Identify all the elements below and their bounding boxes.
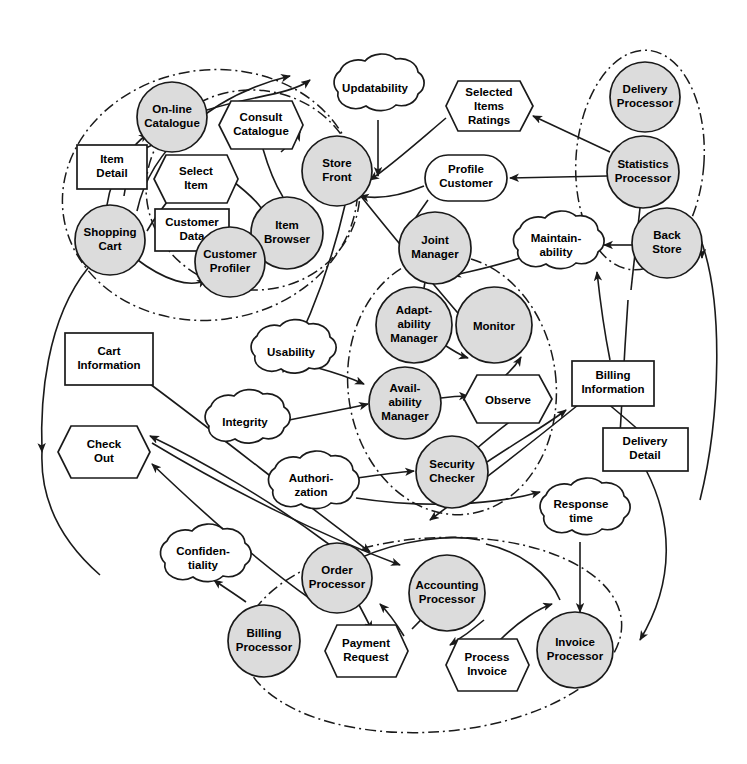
task-observe[interactable]: Observe: [464, 375, 552, 423]
softgoal-usability[interactable]: Usability: [251, 320, 336, 373]
task-check-out[interactable]: Check Out: [58, 426, 150, 478]
softgoal-updatability[interactable]: Updatability: [334, 54, 424, 111]
softgoal-maintainability[interactable]: Maintain- ability: [513, 211, 604, 269]
actor-invoice-processor[interactable]: Invoice Processor: [537, 612, 613, 688]
task-selected-items-ratings[interactable]: Selected Items Ratings: [446, 81, 533, 131]
actor-customer-profiler[interactable]: Customer Profiler: [195, 227, 265, 297]
task-process-invoice[interactable]: Process Invoice: [446, 639, 529, 691]
task-consult-catalogue[interactable]: Consult Catalogue: [219, 101, 303, 149]
goal-profile-customer[interactable]: Profile Customer: [425, 155, 507, 201]
softgoal-confidentiality[interactable]: Confiden- tiality: [160, 524, 251, 582]
resource-cart-information[interactable]: Cart Information: [65, 333, 153, 385]
softgoal-authorization[interactable]: Authori- zation: [268, 451, 359, 509]
softgoal-response-time[interactable]: Response time: [540, 478, 630, 535]
resource-item-detail[interactable]: Item Detail: [77, 145, 147, 189]
actor-availability-manager[interactable]: Avail- ability Manager: [369, 367, 441, 439]
actor-statistics-processor[interactable]: Statistics Processor: [607, 136, 679, 208]
actor-back-store[interactable]: Back Store: [632, 208, 702, 278]
actor-security-checker[interactable]: Security Checker: [416, 436, 488, 508]
actor-monitor[interactable]: Monitor: [456, 287, 532, 363]
actor-order-processor[interactable]: Order Processor: [302, 543, 372, 613]
task-select-item[interactable]: Select Item: [154, 155, 238, 203]
softgoal-integrity[interactable]: Integrity: [205, 390, 290, 443]
goal-group: Profile Customer: [425, 155, 507, 201]
agent-goal-dependency-diagram: Updatability Maintain- ability Usability…: [0, 0, 747, 764]
diagram-canvas: Updatability Maintain- ability Usability…: [0, 0, 747, 764]
actor-accounting-processor[interactable]: Accounting Processor: [409, 555, 485, 631]
resource-delivery-detail[interactable]: Delivery Detail: [603, 428, 688, 471]
actor-joint-manager[interactable]: Joint Manager: [399, 212, 471, 284]
actor-adaptability-manager[interactable]: Adapt- ability Manager: [376, 287, 452, 363]
task-payment-request[interactable]: Payment Request: [325, 625, 408, 677]
actor-shopping-cart[interactable]: Shopping Cart: [75, 205, 145, 275]
actor-delivery-processor[interactable]: Delivery Processor: [610, 62, 680, 132]
actor-store-front[interactable]: Store Front: [302, 136, 372, 206]
resource-billing-information[interactable]: Billing Information: [572, 361, 654, 406]
actor-billing-processor[interactable]: Billing Processor: [228, 605, 300, 677]
actor-online-catalogue[interactable]: On-line Catalogue: [137, 82, 207, 152]
